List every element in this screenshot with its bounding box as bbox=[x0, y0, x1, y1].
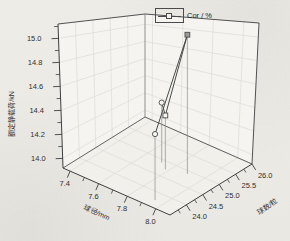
z-tick-label: 14.4 bbox=[29, 106, 44, 115]
data-point-marker bbox=[159, 100, 164, 105]
x-tick-label: 8.0 bbox=[145, 217, 155, 226]
x-minor-tick bbox=[140, 202, 142, 206]
x-minor-tick bbox=[83, 177, 85, 181]
z-tick-label: 14.2 bbox=[30, 130, 45, 139]
data-point-marker bbox=[152, 131, 157, 136]
z-tick-label: 14.0 bbox=[31, 154, 46, 163]
legend-symbol bbox=[155, 8, 184, 23]
y-minor-tick bbox=[211, 190, 213, 193]
data-point-marker bbox=[163, 113, 168, 118]
y-minor-tick bbox=[227, 179, 229, 182]
y-minor-tick bbox=[195, 200, 197, 203]
x-tick-label: 7.6 bbox=[88, 192, 98, 201]
y-tick-label: 24.5 bbox=[209, 202, 224, 211]
y-tick-label: 25.0 bbox=[225, 191, 240, 200]
legend: Cor / % bbox=[155, 8, 212, 23]
x-tick bbox=[67, 171, 70, 177]
y-tick-label: 26.0 bbox=[258, 171, 273, 180]
z-axis-label: 额定静载荷/kN bbox=[6, 91, 16, 137]
y-tick bbox=[203, 195, 207, 201]
y-tick-label: 24.0 bbox=[192, 212, 207, 221]
y-minor-tick bbox=[244, 169, 246, 172]
legend-marker-icon bbox=[166, 13, 172, 19]
z-tick-label: 14.6 bbox=[29, 82, 44, 91]
chart-canvas: 14.014.214.414.614.815.07.47.67.88.024.0… bbox=[0, 0, 290, 241]
x-tick bbox=[96, 184, 99, 190]
x-minor-tick bbox=[111, 190, 113, 194]
z-tick-label: 14.8 bbox=[28, 58, 43, 67]
legend-label: Cor / % bbox=[187, 11, 212, 20]
z-tick-label: 15.0 bbox=[27, 34, 42, 43]
y-tick bbox=[252, 164, 256, 170]
x-tick bbox=[124, 196, 127, 202]
y-minor-tick bbox=[178, 210, 180, 213]
y-tick bbox=[236, 174, 240, 180]
3d-chart: 14.014.214.414.614.815.07.47.67.88.024.0… bbox=[0, 0, 290, 241]
x-tick-label: 7.4 bbox=[60, 179, 70, 188]
data-point-marker bbox=[185, 32, 190, 37]
x-tick-label: 7.8 bbox=[117, 204, 127, 213]
y-tick bbox=[219, 184, 223, 190]
y-tick-label: 25.5 bbox=[242, 181, 257, 190]
x-tick bbox=[153, 209, 156, 215]
y-tick bbox=[186, 205, 190, 211]
